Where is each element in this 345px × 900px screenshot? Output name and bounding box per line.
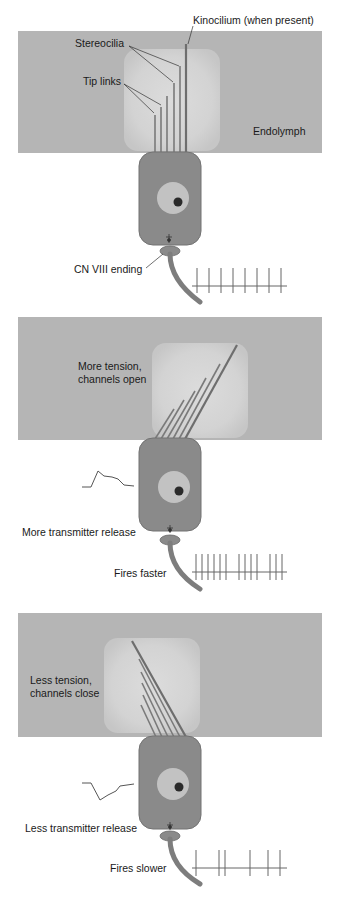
receptor-potential-trace xyxy=(82,471,134,487)
tip-links-label: Tip links xyxy=(83,75,121,87)
state-label: More tension, xyxy=(78,360,142,372)
state-label-line2: channels close xyxy=(30,687,100,699)
nucleus-ring xyxy=(158,471,190,503)
release-label: More transmitter release xyxy=(22,526,136,538)
kinocilium-label: Kinocilium (when present) xyxy=(193,14,314,26)
nerve-label: CN VIII ending xyxy=(74,263,142,275)
panel-hyperpolarized: Less tension, channels close Less transm… xyxy=(18,613,322,884)
endolymph-label: Endolymph xyxy=(253,125,306,137)
nucleus-core xyxy=(174,198,183,207)
release-label: Less transmitter release xyxy=(25,822,137,834)
state-label: Less tension, xyxy=(30,674,92,686)
state-label-line2: channels open xyxy=(78,373,146,385)
glow-box xyxy=(124,49,220,151)
spike-train-slow xyxy=(192,850,287,876)
glow-box xyxy=(104,638,200,733)
nucleus-core xyxy=(175,487,184,496)
panel-depolarized: More tension, channels open More transmi… xyxy=(18,317,322,589)
nerve-fiber xyxy=(170,254,200,302)
nucleus-core xyxy=(175,783,184,792)
spike-train-baseline xyxy=(192,268,287,293)
firing-label: Fires slower xyxy=(110,862,167,874)
nucleus-ring xyxy=(157,768,189,800)
nucleus-ring xyxy=(157,182,189,214)
spike-train-fast xyxy=(192,554,287,580)
stereocilia-label: Stereocilia xyxy=(75,37,124,49)
panel-resting: Kinocilium (when present) Stereocilia Ti… xyxy=(18,14,322,302)
hair-cell-transduction-diagram: Kinocilium (when present) Stereocilia Ti… xyxy=(0,0,345,900)
receptor-potential-trace xyxy=(82,783,134,800)
firing-label: Fires faster xyxy=(114,567,167,579)
